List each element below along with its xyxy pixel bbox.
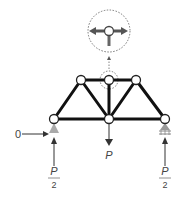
- left-diagonal: [54, 80, 81, 119]
- joint-detail-callout: [88, 10, 130, 52]
- inner-left-diagonal: [81, 80, 109, 119]
- center-load-label: P: [105, 149, 113, 161]
- joint-bottom-left: [50, 115, 59, 124]
- right-diagonal: [136, 80, 165, 119]
- truss-diagram: 0 P 2 P 2 P: [0, 0, 181, 198]
- roller-support: [159, 123, 171, 135]
- joint-top-right: [132, 76, 141, 85]
- right-reaction-numerator: P: [161, 165, 169, 177]
- detail-joint-node: [105, 27, 114, 36]
- callout-pointer-head: [107, 56, 111, 60]
- pin-support: [49, 123, 59, 133]
- right-reaction-denominator: 2: [162, 180, 167, 190]
- truss-members: [54, 80, 165, 119]
- left-reaction-numerator: P: [50, 165, 58, 177]
- inner-right-diagonal: [109, 80, 136, 119]
- left-reaction-denominator: 2: [51, 180, 56, 190]
- joint-bottom-mid: [105, 115, 114, 124]
- joint-top-mid: [105, 76, 114, 85]
- horizontal-reaction-label: 0: [15, 128, 21, 140]
- joint-top-left: [77, 76, 86, 85]
- joint-bottom-right: [161, 115, 170, 124]
